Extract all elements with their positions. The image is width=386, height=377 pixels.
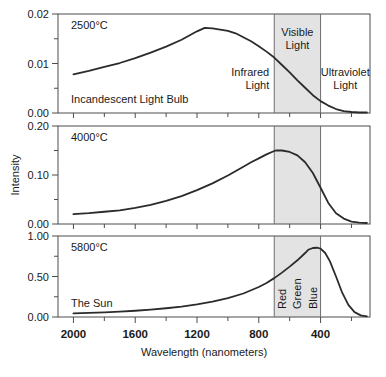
x-tick-label: 400 bbox=[311, 328, 330, 340]
intensity-curve-5800C bbox=[73, 248, 366, 317]
infrared-light-label-line1: Infrared bbox=[231, 66, 269, 78]
intensity-curve-4000C bbox=[73, 151, 366, 224]
y-axis-title: Intensity bbox=[9, 154, 21, 195]
infrared-light-label-line2: Light bbox=[245, 79, 269, 91]
y-tick-label: 0.00 bbox=[28, 218, 49, 230]
y-tick-label: 0.20 bbox=[28, 120, 49, 132]
temperature-label: 5800°C bbox=[71, 241, 108, 253]
y-tick-label: 0.00 bbox=[28, 311, 49, 323]
y-tick-label: 0.01 bbox=[28, 58, 49, 70]
color-label-red: Red bbox=[276, 289, 288, 309]
x-axis: 200016001200800400Wavelength (nanometers… bbox=[61, 328, 331, 358]
x-tick-label: 800 bbox=[249, 328, 268, 340]
blackbody-radiation-figure: 0.000.010.022500°CIncandescent Light Bul… bbox=[0, 0, 386, 377]
x-tick-label: 2000 bbox=[61, 328, 87, 340]
x-tick-label: 1200 bbox=[184, 328, 210, 340]
temperature-label: 2500°C bbox=[71, 19, 108, 31]
ultraviolet-light-label-line2: Light bbox=[333, 79, 357, 91]
y-tick-label: 0.02 bbox=[28, 8, 49, 20]
source-label: The Sun bbox=[71, 297, 113, 309]
spectral-intensity-chart: 0.000.010.022500°CIncandescent Light Bul… bbox=[0, 0, 386, 377]
y-tick-label: 0.50 bbox=[28, 271, 49, 283]
source-label: Incandescent Light Bulb bbox=[71, 93, 188, 105]
x-tick-label: 1600 bbox=[122, 328, 148, 340]
x-axis-title: Wavelength (nanometers) bbox=[141, 346, 267, 358]
y-tick-label: 0.00 bbox=[28, 107, 49, 119]
y-tick-label: 1.00 bbox=[28, 230, 49, 242]
y-tick-label: 0.10 bbox=[28, 169, 49, 181]
panel-2500C: 0.000.010.022500°CIncandescent Light Bul… bbox=[28, 8, 370, 119]
panel-4000C: 0.000.100.204000°C bbox=[28, 120, 370, 230]
color-label-blue: Blue bbox=[307, 287, 319, 309]
ultraviolet-light-label-line1: Ultraviolet bbox=[321, 66, 370, 78]
visible-light-label-line1: Visible bbox=[281, 26, 313, 38]
color-label-green: Green bbox=[291, 278, 303, 309]
visible-light-label-line2: Light bbox=[285, 39, 309, 51]
temperature-label: 4000°C bbox=[71, 131, 108, 143]
